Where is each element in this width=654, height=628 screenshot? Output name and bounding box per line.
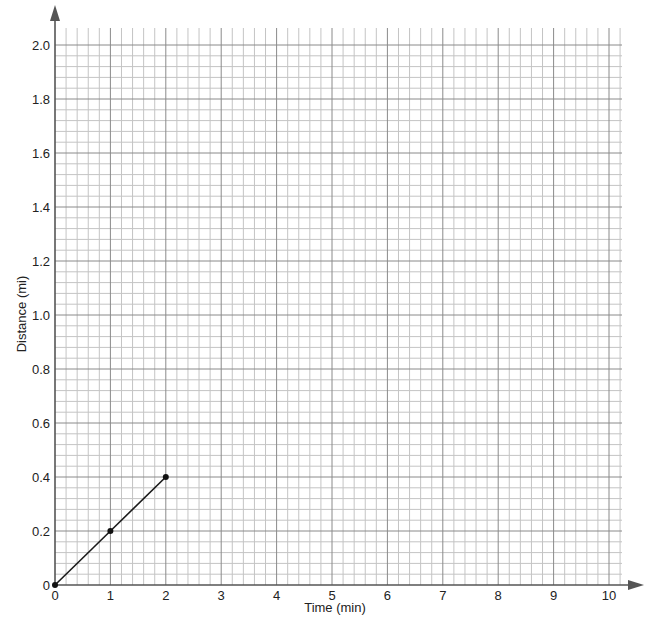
y-tick-label: 1.4: [32, 200, 50, 215]
y-tick-label: 1.8: [32, 92, 50, 107]
x-tick-label: 8: [495, 588, 502, 603]
x-axis-title: Time (min): [304, 600, 366, 615]
data-point-marker: [107, 528, 113, 534]
y-axis-arrow-icon: [50, 5, 60, 21]
data-point-marker: [163, 474, 169, 480]
x-tick-label: 1: [107, 588, 114, 603]
y-tick-label: 1.6: [32, 146, 50, 161]
x-tick-label: 6: [384, 588, 391, 603]
y-tick-label: 0: [43, 578, 50, 593]
y-tick-label: 0.6: [32, 416, 50, 431]
x-tick-label: 2: [162, 588, 169, 603]
y-tick-label: 2.0: [32, 38, 50, 53]
x-tick-label: 3: [218, 588, 225, 603]
x-tick-label: 0: [51, 588, 58, 603]
y-tick-label: 0.4: [32, 470, 50, 485]
x-tick-label: 7: [439, 588, 446, 603]
y-tick-label: 0.2: [32, 524, 50, 539]
distance-time-chart: 012345678910 00.20.40.60.81.01.21.41.61.…: [0, 0, 654, 628]
x-tick-label: 9: [550, 588, 557, 603]
y-tick-label: 1.2: [32, 254, 50, 269]
y-tick-label: 0.8: [32, 362, 50, 377]
x-axis-arrow-icon: [628, 580, 644, 590]
x-tick-label: 4: [273, 588, 280, 603]
data-point-marker: [52, 582, 58, 588]
y-tick-label: 1.0: [32, 308, 50, 323]
y-axis-tick-labels: 00.20.40.60.81.01.21.41.61.82.0: [32, 38, 50, 593]
y-axis-title: Distance (mi): [14, 276, 29, 353]
x-tick-label: 10: [602, 588, 616, 603]
